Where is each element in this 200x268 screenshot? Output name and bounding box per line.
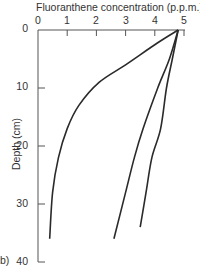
data-lines (50, 30, 178, 239)
depth-profile-chart: Fluoranthene concentration (p.p.m.) 0 1 … (0, 0, 200, 268)
plot-area (0, 0, 200, 268)
axes (38, 30, 185, 262)
series-profile-2 (114, 30, 178, 239)
series-profile-3 (140, 30, 178, 227)
